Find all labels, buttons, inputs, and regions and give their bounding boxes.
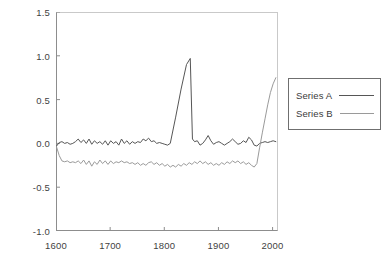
legend-entry-series-b: Series B	[296, 104, 374, 122]
y-axis-tick-labels: -1.0-0.50.00.51.01.5	[0, 0, 50, 271]
y-tick-label: 1.5	[4, 7, 50, 18]
y-tick-label: 0.0	[4, 138, 50, 149]
plot-canvas	[56, 12, 278, 231]
y-tick-label: -0.5	[4, 182, 50, 193]
legend-swatch-series-a	[339, 95, 374, 96]
series-lines	[57, 58, 276, 167]
series-line-a	[57, 58, 276, 146]
y-tick-label: 0.5	[4, 94, 50, 105]
x-tick-label: 1900	[195, 240, 241, 251]
chart-figure: -1.0-0.50.00.51.01.5 1600170018001900200…	[0, 0, 391, 271]
legend-label-series-b: Series B	[296, 108, 333, 119]
x-tick-label: 1800	[141, 240, 187, 251]
legend-label-series-a: Series A	[296, 90, 332, 101]
x-tick-label: 1700	[87, 240, 133, 251]
series-line-b	[57, 78, 276, 167]
y-tick-label: 1.0	[4, 50, 50, 61]
x-axis-tick-labels: 16001700180019002000	[0, 240, 391, 260]
legend-entry-series-a: Series A	[296, 86, 374, 104]
axis-ticks	[56, 12, 273, 231]
x-tick-label: 1600	[33, 240, 79, 251]
chart-legend: Series A Series B	[288, 78, 381, 130]
legend-swatch-series-b	[340, 113, 374, 114]
x-tick-label: 2000	[250, 240, 296, 251]
y-tick-label: -1.0	[4, 226, 50, 237]
